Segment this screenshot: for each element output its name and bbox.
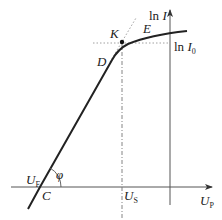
probe-characteristic-diagram: ln I ln I0 K E D C φ UF US UP xyxy=(0,0,222,220)
point-c-label: C xyxy=(42,188,51,203)
point-k-label: K xyxy=(109,26,120,41)
angle-phi-label: φ xyxy=(56,167,63,182)
point-k-marker xyxy=(120,40,124,44)
characteristic-curve xyxy=(28,31,187,209)
y-axis-label: ln I xyxy=(149,8,167,23)
point-d-label: D xyxy=(96,54,107,69)
ln-i0-label: ln I0 xyxy=(174,39,196,56)
x-axis-label: UP xyxy=(200,193,214,210)
point-e-label: E xyxy=(142,21,151,36)
u-s-label: US xyxy=(124,188,138,205)
u-f-label: UF xyxy=(26,172,40,189)
